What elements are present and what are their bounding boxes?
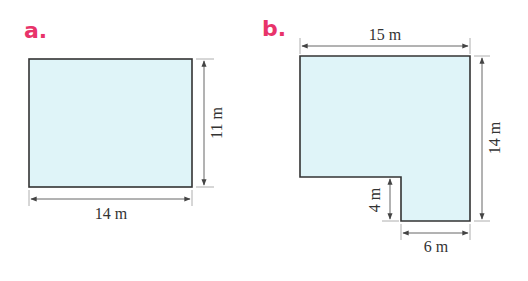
height-dimension-label: 11 m (208, 107, 225, 139)
figure-a: a. 11 m 14 m (24, 18, 225, 222)
figure-b-label: b. (262, 16, 286, 41)
rectangle-shape (29, 59, 192, 187)
diagram-canvas: a. 11 m 14 m b. 15 m 14 m 4 m 6 (0, 0, 528, 281)
figure-a-label: a. (24, 18, 47, 43)
figure-b: b. 15 m 14 m 4 m 6 m (262, 16, 503, 255)
notch-dimension-label: 4 m (366, 187, 383, 212)
top-dimension-label: 15 m (369, 26, 402, 43)
bottom-dimension-label: 6 m (424, 238, 449, 255)
l-shape (300, 56, 470, 221)
width-dimension-label: 14 m (95, 205, 128, 222)
right-dimension-label: 14 m (486, 121, 503, 154)
